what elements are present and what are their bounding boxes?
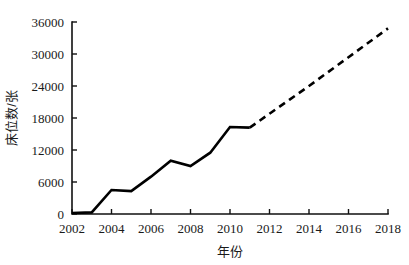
x-tick-label-2: 2006 — [138, 221, 165, 236]
chart-figure: 0600012000180002400030000360002002200420… — [0, 0, 409, 265]
y-tick-label-0: 0 — [58, 207, 65, 222]
y-tick-label-5: 30000 — [32, 47, 65, 62]
chart-canvas: 0600012000180002400030000360002002200420… — [0, 0, 409, 265]
x-tick-label-4: 2010 — [217, 221, 243, 236]
x-tick-label-1: 2004 — [99, 221, 126, 236]
y-axis-title: 床位数/张 — [4, 90, 19, 146]
x-tick-label-8: 2018 — [375, 221, 401, 236]
chart-axes — [72, 22, 388, 214]
x-tick-label-0: 2002 — [59, 221, 85, 236]
x-axis-title: 年份 — [217, 244, 243, 259]
x-tick-label-3: 2008 — [178, 221, 204, 236]
y-tick-label-2: 12000 — [32, 143, 65, 158]
x-tick-label-5: 2012 — [257, 221, 283, 236]
data-series-actual — [72, 127, 250, 213]
data-series-forecast — [250, 28, 388, 127]
y-tick-label-4: 24000 — [32, 79, 65, 94]
y-tick-label-3: 18000 — [32, 111, 65, 126]
y-tick-label-6: 36000 — [32, 15, 65, 30]
x-tick-label-6: 2014 — [296, 221, 323, 236]
x-tick-label-7: 2016 — [336, 221, 363, 236]
y-tick-label-1: 6000 — [38, 175, 64, 190]
